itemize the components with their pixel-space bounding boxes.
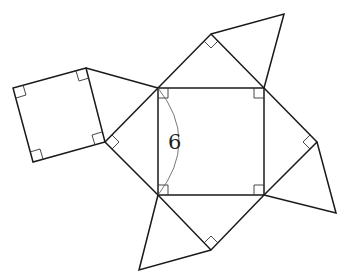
top-triangle [158, 34, 264, 88]
left-connector-edge [86, 68, 158, 88]
side-length-label: 6 [168, 130, 181, 154]
right-angle-marks [16, 41, 310, 243]
bottom-triangle [158, 195, 264, 250]
geometry-net-diagram: 6 [0, 0, 337, 272]
top-outer-triangle [211, 14, 284, 88]
right-triangle [264, 88, 317, 195]
right-outer-triangle [264, 142, 336, 213]
left-triangle [105, 88, 158, 195]
left-square [13, 68, 105, 162]
bottom-outer-triangle [139, 195, 211, 270]
